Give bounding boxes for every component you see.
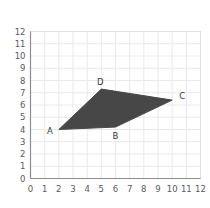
y-tick-label: 4: [20, 125, 25, 135]
y-tick-label: 1: [20, 161, 25, 171]
x-tick-label: 11: [181, 184, 192, 194]
x-axis-tick-labels: 0123456789101112: [28, 184, 206, 194]
x-tick-label: 4: [84, 184, 89, 194]
y-tick-label: 9: [20, 63, 25, 73]
x-tick-label: 6: [113, 184, 118, 194]
y-tick-label: 0: [20, 174, 25, 184]
x-tick-label: 0: [28, 184, 33, 194]
vertex-label-d: D: [97, 77, 104, 87]
plot-area: 0123456789101112 0123456789101112 ABCD: [0, 0, 210, 208]
vertex-label-a: A: [47, 126, 53, 136]
x-tick-label: 10: [167, 184, 178, 194]
y-axis-tick-labels: 0123456789101112: [15, 27, 26, 184]
x-tick-label: 7: [127, 184, 132, 194]
coordinate-plane-chart: 0123456789101112 0123456789101112 ABCD: [0, 0, 210, 208]
x-tick-label: 3: [70, 184, 75, 194]
x-tick-label: 12: [195, 184, 206, 194]
vertex-label-b: B: [113, 131, 119, 141]
data-polygon: [59, 89, 172, 129]
y-tick-label: 11: [15, 39, 26, 49]
polygon-group: [59, 89, 172, 129]
y-tick-label: 7: [20, 88, 25, 98]
y-tick-label: 5: [20, 112, 25, 122]
y-tick-label: 6: [20, 100, 25, 110]
x-tick-label: 5: [99, 184, 104, 194]
y-tick-label: 3: [20, 137, 25, 147]
y-tick-label: 2: [20, 149, 25, 159]
x-tick-label: 9: [155, 184, 160, 194]
y-tick-label: 12: [15, 27, 26, 37]
x-tick-label: 1: [42, 184, 47, 194]
x-tick-label: 8: [141, 184, 146, 194]
y-tick-label: 8: [20, 76, 25, 86]
x-tick-label: 2: [56, 184, 61, 194]
y-tick-label: 10: [15, 51, 26, 61]
vertex-label-c: C: [179, 91, 185, 101]
